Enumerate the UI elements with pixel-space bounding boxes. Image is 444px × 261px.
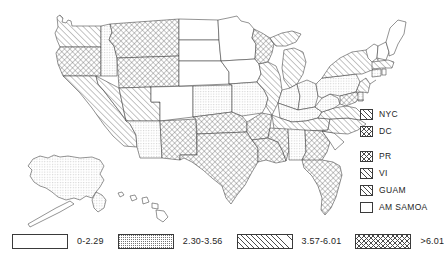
legend-item-class-2[interactable]: 2.30-3.56 — [118, 234, 223, 249]
legend-label-dc: DC — [379, 127, 392, 136]
state-mi-upper — [270, 31, 301, 46]
swatch-dot-icon — [118, 234, 174, 249]
legend-label-class-4: >6.01 — [420, 237, 444, 246]
legend-label-guam: GUAM — [379, 186, 406, 195]
state-wy — [117, 56, 179, 88]
state-ri — [382, 69, 386, 75]
legend-row-pr[interactable]: PR — [360, 148, 433, 164]
legend-row-dc[interactable]: DC — [360, 123, 433, 139]
legend-row-am-samoa[interactable]: AM SAMOA — [360, 199, 433, 215]
legend-row-guam[interactable]: GUAM — [360, 182, 433, 198]
state-oh — [297, 80, 318, 110]
state-nd — [179, 19, 219, 40]
swatch-hatch-icon — [360, 109, 373, 120]
state-hi-5 — [156, 210, 168, 222]
legend-item-class-1[interactable]: 0-2.29 — [12, 234, 104, 249]
state-ks — [193, 85, 232, 117]
state-fl — [302, 160, 342, 215]
legend-label-nyc: NYC — [379, 110, 398, 119]
swatch-hatch-icon — [237, 234, 293, 249]
legend-label-class-1: 0-2.29 — [77, 237, 104, 246]
legend-label-vi: VI — [379, 169, 388, 178]
state-ak — [28, 155, 104, 200]
legend-row-nyc[interactable]: NYC — [360, 106, 433, 122]
legend-label-am-samoa: AM SAMOA — [379, 203, 428, 212]
legend-row-vi[interactable]: VI — [360, 165, 433, 181]
state-or — [56, 47, 101, 76]
value-legend: 0-2.29 2.30-3.56 3.57-6.01 >6.01 — [12, 234, 424, 249]
swatch-hatch-icon — [360, 185, 373, 196]
state-hi-1 — [118, 192, 124, 197]
state-ak-aleutians — [28, 201, 74, 227]
legend-label-class-3: 3.57-6.01 — [302, 237, 342, 246]
state-ne — [179, 61, 229, 86]
state-mt — [109, 19, 179, 58]
state-ct — [372, 69, 381, 77]
state-hi-2 — [130, 195, 137, 201]
state-de — [358, 92, 363, 101]
swatch-blank-icon — [12, 234, 68, 249]
state-nm — [160, 119, 197, 160]
legend-item-class-3[interactable]: 3.57-6.01 — [237, 234, 342, 249]
state-mn — [218, 16, 256, 61]
legend-item-class-4[interactable]: >6.01 — [355, 234, 444, 249]
legend-spacer — [360, 140, 433, 148]
swatch-cross-icon — [360, 151, 373, 162]
state-hi-3 — [142, 197, 149, 204]
state-hi-4 — [152, 203, 158, 209]
swatch-cross-icon — [355, 234, 411, 249]
legend-label-class-2: 2.30-3.56 — [183, 237, 223, 246]
state-ma — [372, 60, 394, 69]
swatch-cross-icon — [360, 126, 373, 137]
state-wa — [55, 15, 101, 47]
state-me — [386, 20, 406, 56]
state-sd — [179, 40, 221, 61]
swatch-blank-icon — [360, 202, 373, 213]
swatch-hatch-icon — [360, 168, 373, 179]
territory-legend: NYC DC PR VI GUAM AM SAMOA — [360, 106, 433, 216]
state-al — [288, 129, 306, 160]
callout-line-nyc — [370, 80, 376, 84]
legend-label-pr: PR — [379, 152, 392, 161]
